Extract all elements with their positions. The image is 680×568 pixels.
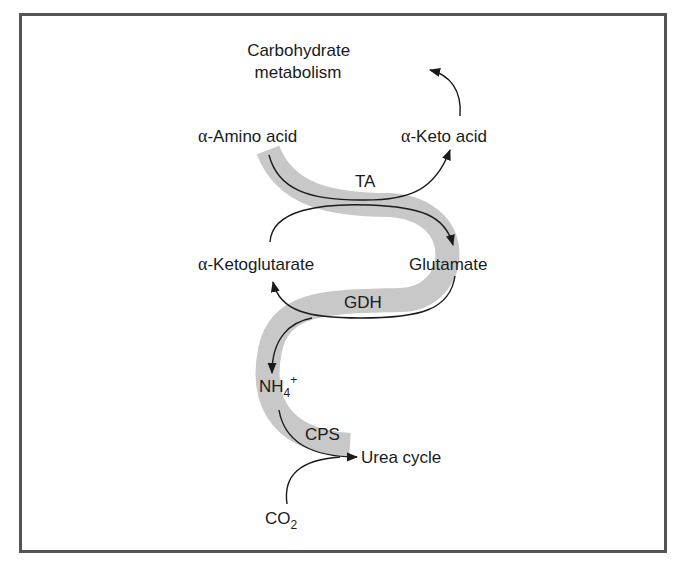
label-cps-enzyme: CPS bbox=[305, 425, 340, 444]
label-alpha-keto-acid: α-Keto acid bbox=[401, 126, 487, 146]
label-ammonium: NH4+ bbox=[259, 373, 297, 400]
label-urea-cycle: Urea cycle bbox=[361, 448, 441, 467]
nitrogen-flow-diagram: Carbohydrate metabolism α-Amino acid α-K… bbox=[0, 0, 680, 568]
label-alpha-amino-acid: α-Amino acid bbox=[198, 126, 297, 146]
label-gdh-enzyme: GDH bbox=[344, 293, 382, 312]
label-carbohydrate: Carbohydrate metabolism bbox=[247, 41, 355, 82]
carbohydrate-arrow bbox=[430, 70, 460, 116]
label-glutamate: Glutamate bbox=[409, 255, 487, 274]
co2-arrow bbox=[286, 457, 340, 504]
label-carbon-dioxide: CO2 bbox=[265, 509, 298, 532]
label-ta-enzyme: TA bbox=[355, 172, 376, 191]
label-alpha-ketoglutarate: α-Ketoglutarate bbox=[198, 254, 314, 274]
